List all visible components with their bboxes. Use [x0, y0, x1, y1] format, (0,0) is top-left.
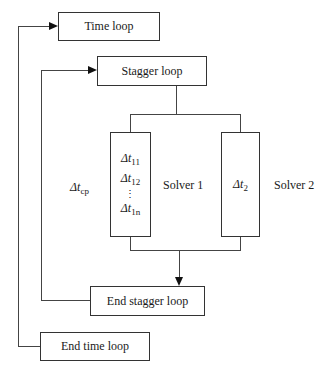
solver1-box: Δt11 Δt12 ⋮ Δt1n: [110, 132, 151, 237]
end-stagger-loop-connector: [41, 300, 90, 301]
solver2-box: Δt2: [221, 132, 260, 237]
end-stagger-loop-label: End stagger loop: [107, 294, 188, 309]
solver1-step-1n: Δt1n: [121, 200, 140, 220]
solver1-step-12: Δt12: [121, 170, 140, 190]
solver1-label: Solver 1: [163, 178, 203, 193]
arrow-to-time-loop-icon: [49, 22, 58, 30]
solver1-ellipsis: ⋮: [125, 191, 135, 197]
split-connector: [130, 114, 241, 115]
merge-stem-line: [179, 250, 180, 278]
time-loop-top-connector: [18, 26, 50, 27]
merge-connector: [130, 250, 241, 251]
solver1-top-stem: [130, 114, 131, 132]
stagger-loop-box: Stagger loop: [97, 56, 207, 86]
end-time-loop-connector: [18, 346, 40, 347]
stagger-stem-line: [176, 86, 177, 114]
stagger-loop-label: Stagger loop: [122, 64, 183, 79]
time-loop-box: Time loop: [58, 12, 160, 41]
time-loop-return-line: [18, 26, 19, 347]
stagger-loop-return-line: [41, 70, 42, 301]
coupling-timestep-label: Δtcp: [70, 180, 89, 196]
time-loop-label: Time loop: [84, 19, 133, 34]
arrow-to-stagger-loop-icon: [88, 66, 97, 74]
solver1-timesteps: Δt11 Δt12 ⋮ Δt1n: [121, 150, 140, 220]
arrow-to-end-stagger-icon: [175, 277, 183, 286]
end-time-loop-label: End time loop: [61, 339, 129, 354]
solver2-top-stem: [240, 114, 241, 132]
solver2-bottom-stem: [240, 237, 241, 251]
solver1-bottom-stem: [130, 237, 131, 251]
end-time-loop-box: End time loop: [40, 332, 150, 361]
solver1-step-11: Δt11: [121, 150, 140, 170]
solver2-step: Δt2: [233, 177, 248, 193]
stagger-loop-top-connector: [41, 70, 88, 71]
solver2-label: Solver 2: [274, 178, 314, 193]
end-stagger-loop-box: End stagger loop: [90, 286, 205, 316]
